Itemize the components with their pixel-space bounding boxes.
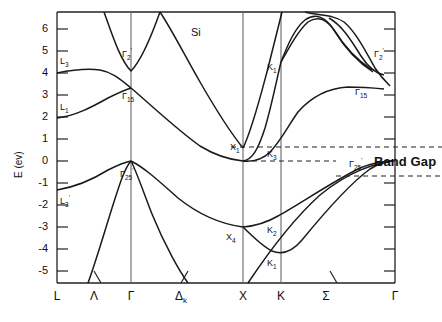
point-label-K1-lower: K1	[267, 259, 277, 270]
band-topleft-rise	[160, 12, 243, 148]
point-label-K3-sub: 3	[273, 154, 277, 161]
point-label-X1-sub: 1	[236, 147, 240, 154]
point-label-Gamma25prime-prime: '	[132, 167, 133, 174]
point-label-Gamma2prime-prime: '	[131, 47, 132, 54]
y-tick-label-2: 2	[26, 111, 48, 122]
band-deep-right	[131, 161, 188, 283]
point-label-L3prime: L3'	[60, 195, 70, 208]
band-G25p-X4	[131, 161, 243, 227]
y-tick-label-m1: -1	[22, 177, 48, 188]
band-G2-min	[104, 12, 160, 71]
point-label-Gamma2prime-right-sub: 2	[379, 54, 383, 61]
point-label-L3prime-prime: '	[69, 194, 70, 201]
point-label-Gamma25prime-right: Γ25'	[349, 158, 362, 171]
point-label-L3-sub: 3	[65, 61, 69, 68]
point-label-X4-sub: 4	[232, 237, 236, 244]
y-tick-label-3: 3	[26, 89, 48, 100]
band-structure-figure: 6 5 4 3 2 1 0 -1 -2 -3 -4 -5 E (ev) L Λ …	[0, 0, 442, 322]
point-label-L1: L1	[60, 103, 69, 114]
y-tick-label-m2: -2	[22, 199, 48, 210]
point-label-K1-lower-sub: 1	[273, 263, 277, 270]
conduction-bands	[57, 12, 390, 161]
band-K1-up	[281, 16, 372, 70]
point-label-Gamma2prime-right-prime: '	[383, 47, 384, 54]
band-X4-K2-G	[243, 161, 393, 227]
point-label-K2: K2	[267, 226, 277, 237]
point-label-L1-sub: 1	[65, 107, 69, 114]
x-tick-label-Lambda: Λ	[84, 290, 104, 302]
point-label-Gamma25prime-right-prime: '	[361, 157, 362, 164]
x-tick-label-L: L	[47, 290, 67, 302]
point-label-K3: K3	[267, 150, 277, 161]
point-label-Gamma25prime-right-sub: 25	[354, 164, 361, 171]
point-label-Gamma25prime-sub: 25	[125, 174, 132, 181]
point-label-Gamma15-sub: 15	[127, 96, 134, 103]
point-label-K1-upper-sub: 1	[273, 67, 277, 74]
point-label-L3prime-sub: 3	[65, 201, 69, 208]
x-tick-label-Delta: Δ	[175, 289, 183, 303]
y-tick-label-m3: -3	[22, 221, 48, 232]
point-label-Gamma15: Γ15	[122, 92, 134, 103]
point-label-Gamma2prime: Γ2'	[122, 48, 132, 61]
y-tick-label-4: 4	[26, 67, 48, 78]
band-gap-annotation: Band Gap	[374, 155, 436, 168]
x-tick-label-k-subscript: k	[183, 296, 187, 305]
point-label-L3: L3	[60, 57, 69, 68]
y-axis-title: E (ev)	[14, 151, 24, 178]
y-tick-label-1: 1	[26, 133, 48, 144]
y-tick-label-6: 6	[26, 23, 48, 34]
y-tick-label-m4: -4	[22, 243, 48, 254]
point-label-K2-sub: 2	[273, 230, 277, 237]
band-L3-G15	[57, 69, 131, 88]
point-label-Gamma25prime: Γ25'	[120, 168, 133, 181]
point-label-Gamma2prime-right: Γ2'	[374, 48, 384, 61]
x-tick-label-Gamma-right: Γ	[385, 290, 405, 302]
point-label-X4: X4	[226, 233, 236, 244]
x-tick-label-X: X	[233, 290, 253, 302]
point-label-Gamma15-right-sub: 15	[360, 92, 367, 99]
material-label: Si	[191, 27, 201, 38]
valence-bands	[57, 161, 393, 283]
point-label-X1: X1	[230, 143, 240, 154]
x-tick-label-Gamma: Γ	[121, 290, 141, 302]
band-K1-up-companion	[281, 19, 373, 72]
y-tick-label-0: 0	[26, 155, 48, 166]
x-tick-label-K: K	[271, 290, 291, 302]
point-label-K1-upper: K1	[267, 63, 277, 74]
point-label-Gamma15-right: Γ15	[355, 88, 367, 99]
point-label-Gamma2prime-sub: 2	[127, 54, 131, 61]
y-tick-label-m5: -5	[22, 265, 48, 276]
band-X4-K1-G	[243, 161, 393, 253]
y-axis-ticks-right	[384, 29, 395, 271]
y-tick-label-5: 5	[26, 45, 48, 56]
x-tick-label-Sigma: Σ	[316, 290, 336, 302]
x-tick-label-Delta-k: Δk	[166, 290, 196, 305]
band-right-G2	[329, 18, 384, 75]
